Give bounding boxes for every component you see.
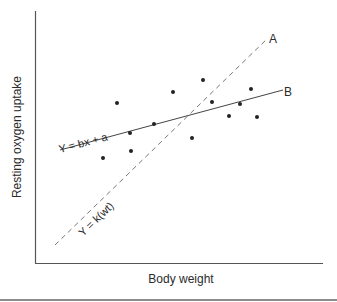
data-point bbox=[115, 101, 119, 105]
line-b-label: B bbox=[284, 85, 292, 99]
data-point bbox=[152, 122, 156, 126]
oxygen-uptake-diagram: A B Y = bx + a Y = k(wt) Body weight Res… bbox=[0, 0, 337, 302]
data-point bbox=[128, 131, 132, 135]
data-point bbox=[249, 87, 253, 91]
data-point bbox=[201, 78, 205, 82]
data-point bbox=[190, 136, 194, 140]
line-b-equation: Y = bx + a bbox=[57, 130, 109, 155]
data-point bbox=[171, 90, 175, 94]
data-points bbox=[101, 78, 259, 160]
data-point bbox=[238, 102, 242, 106]
y-axis-label: Resting oxygen uptake bbox=[10, 76, 24, 198]
data-point bbox=[255, 115, 259, 119]
data-point bbox=[129, 149, 133, 153]
x-axis-label: Body weight bbox=[148, 272, 214, 286]
data-point bbox=[227, 114, 231, 118]
line-a-label: A bbox=[269, 32, 277, 46]
data-point bbox=[210, 100, 214, 104]
data-point bbox=[101, 156, 105, 160]
